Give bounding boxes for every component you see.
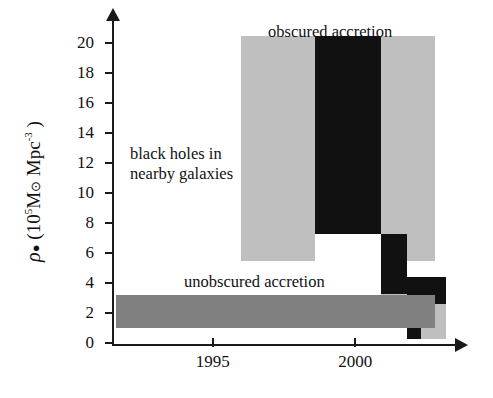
y-axis-title-mass: M [23, 192, 44, 209]
y-axis-tick [105, 192, 114, 194]
y-axis-title-open: (10 [23, 214, 44, 244]
y-axis-title-close: ) [23, 121, 44, 132]
y-axis-tick [105, 282, 114, 284]
y-axis-title-exponent: 5 [22, 209, 34, 215]
y-axis-title-sun-icon: ⊙ [28, 181, 43, 192]
y-axis-tick-label: 2 [52, 304, 94, 321]
y-axis-tick [105, 222, 114, 224]
obscured-gray-left [241, 36, 315, 261]
y-axis-line [112, 18, 114, 346]
obscured-gray-right [381, 36, 435, 261]
annotation-bh-line2: nearby galaxies [130, 164, 233, 183]
obscured-black-main [315, 36, 381, 234]
y-axis-tick [105, 342, 114, 344]
y-axis-tick [105, 312, 114, 314]
x-axis-tick-label: 2000 [338, 352, 372, 372]
y-axis-arrow-icon [106, 8, 120, 21]
x-axis-arrow-icon [455, 338, 468, 352]
y-axis-tick-label: 20 [52, 34, 94, 51]
y-axis-title-rho: ρ [22, 252, 44, 262]
x-axis-tick [212, 338, 214, 347]
y-axis-title-mpc: Mpc [23, 141, 44, 181]
y-axis-tick-label: 10 [52, 184, 94, 201]
annotation-bh-line1: black holes in [130, 144, 222, 163]
annotation-unobscured-accretion: unobscured accretion [184, 272, 325, 292]
chart-figure: ρ● (105M⊙ Mpc-3 ) 20181614121086420 1995… [0, 0, 493, 398]
x-axis-line [112, 344, 462, 346]
y-axis-tick-label: 18 [52, 64, 94, 81]
y-axis-title: ρ● (105M⊙ Mpc-3 ) [22, 87, 45, 297]
annotation-black-holes-nearby-galaxies: black holes innearby galaxies [130, 144, 233, 184]
y-axis-title-mpc-exponent: -3 [22, 132, 34, 141]
annotation-obscured-accretion: obscured accretion [268, 22, 392, 42]
y-axis-tick [105, 162, 114, 164]
x-axis-tick-label: 1995 [196, 352, 230, 372]
y-axis-tick [105, 252, 114, 254]
obscured-black-step-1 [381, 234, 407, 294]
y-axis-tick-label: 12 [52, 154, 94, 171]
y-axis-tick-label: 4 [52, 274, 94, 291]
y-axis-tick-label: 8 [52, 214, 94, 231]
y-axis-tick [105, 42, 114, 44]
y-axis-tick-label: 14 [52, 124, 94, 141]
y-axis-tick [105, 132, 114, 134]
y-axis-tick [105, 72, 114, 74]
y-axis-tick [105, 102, 114, 104]
unobscured-bar [116, 295, 435, 328]
y-axis-title-bullet: ● [28, 244, 43, 252]
x-axis-tick [354, 338, 356, 347]
y-axis-tick-label: 16 [52, 94, 94, 111]
y-axis-tick-label: 0 [52, 334, 94, 351]
y-axis-tick-label: 6 [52, 244, 94, 261]
